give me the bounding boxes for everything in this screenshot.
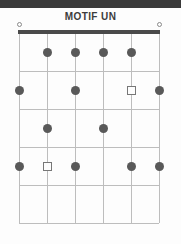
fret-marker-dot [127, 48, 136, 57]
fret-line [19, 71, 159, 72]
open-string-circle [157, 22, 162, 27]
chord-diagram [0, 0, 181, 244]
fret-line [19, 185, 159, 186]
fret-marker-dot [43, 124, 52, 133]
fret-marker-dot [127, 162, 136, 171]
fret-line [19, 223, 159, 224]
nut-bar [18, 30, 160, 34]
string-line [131, 34, 132, 223]
fret-marker-dot [99, 48, 108, 57]
fret-line [19, 109, 159, 110]
open-string-circle [17, 22, 22, 27]
string-line [75, 34, 76, 223]
fret-marker-dot [15, 86, 24, 95]
fret-marker-dot [155, 162, 164, 171]
fret-marker-dot [155, 86, 164, 95]
fret-marker-dot [15, 162, 24, 171]
fret-marker-dot [71, 86, 80, 95]
fret-marker-dot [71, 48, 80, 57]
string-line [19, 34, 20, 223]
fret-marker-dot [71, 162, 80, 171]
fret-marker-square [43, 162, 52, 171]
fret-marker-dot [99, 124, 108, 133]
fret-marker-square [127, 86, 136, 95]
fret-line [19, 147, 159, 148]
string-line [159, 34, 160, 223]
fret-marker-dot [43, 48, 52, 57]
